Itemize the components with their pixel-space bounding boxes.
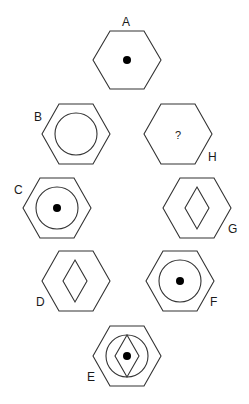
- label-a: A: [122, 15, 130, 29]
- figure-d: D: [36, 251, 110, 311]
- label-g: G: [228, 222, 237, 236]
- label-h: H: [208, 150, 217, 164]
- dot-shape: [176, 277, 184, 285]
- diamond-shape: [63, 260, 87, 302]
- hexagon-puzzle-diagram: A B ? H C G D F: [0, 0, 249, 404]
- label-e: E: [87, 370, 95, 384]
- figure-b: B: [34, 104, 110, 164]
- hexagon-shape: [42, 251, 110, 311]
- figure-g: G: [163, 178, 237, 238]
- label-c: C: [14, 183, 23, 197]
- label-d: D: [36, 295, 45, 309]
- figure-h: ? H: [144, 104, 217, 164]
- dot-shape: [53, 204, 61, 212]
- diamond-shape: [185, 187, 209, 229]
- question-mark: ?: [175, 129, 181, 141]
- dot-shape: [123, 352, 131, 360]
- label-f: F: [210, 295, 217, 309]
- figure-a: A: [93, 15, 161, 89]
- figure-e: E: [87, 326, 161, 386]
- label-b: B: [34, 110, 42, 124]
- dot-shape: [123, 56, 131, 64]
- circle-shape: [55, 113, 97, 155]
- figure-f: F: [146, 251, 217, 311]
- figure-c: C: [14, 178, 91, 238]
